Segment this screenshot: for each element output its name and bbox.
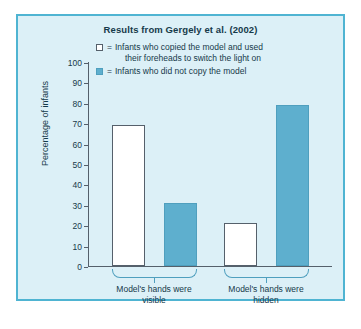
group-brace-tick-1 <box>154 278 155 283</box>
y-tick-mark <box>84 185 88 186</box>
y-tick-mark <box>84 83 88 84</box>
group-label-2: Model's hands werehidden <box>206 284 327 306</box>
y-tick-mark <box>84 145 88 146</box>
group-label-line: hidden <box>206 295 327 306</box>
y-axis-title: Percentage of infants <box>40 81 50 166</box>
bar-group2-series2 <box>276 105 309 266</box>
y-tick-mark <box>84 226 88 227</box>
group-brace-tick-2 <box>266 278 267 283</box>
y-axis-line <box>88 62 89 267</box>
y-tick-mark <box>84 165 88 166</box>
legend-label-copied-line1: Infants who copied the model and used <box>115 42 263 52</box>
y-tick-label: 0 <box>77 262 82 272</box>
group-brace-2 <box>224 269 309 278</box>
y-tick-label: 20 <box>73 221 82 231</box>
y-tick-mark <box>84 63 88 64</box>
y-tick-mark <box>84 104 88 105</box>
legend-equals-sign: = <box>107 42 112 53</box>
figure-panel: Results from Gergely et al. (2002) = Inf… <box>16 14 345 301</box>
y-tick-label: 30 <box>73 201 82 211</box>
y-tick-label: 50 <box>73 160 82 170</box>
group-label-line: Model's hands were <box>206 284 327 295</box>
y-tick-mark <box>84 267 88 268</box>
y-tick-label: 80 <box>73 99 82 109</box>
y-tick-mark <box>84 247 88 248</box>
y-tick-label: 10 <box>73 242 82 252</box>
bar-group2-series1 <box>224 223 257 266</box>
y-tick-mark <box>84 124 88 125</box>
chart-title: Results from Gergely et al. (2002) <box>18 24 343 35</box>
group-label-1: Model's hands werevisible <box>94 284 215 306</box>
y-tick-mark <box>84 206 88 207</box>
bar-group1-series2 <box>164 203 197 266</box>
y-tick-label: 70 <box>73 119 82 129</box>
plot-area: 0102030405060708090100 <box>88 62 332 267</box>
legend-label-copied: Infants who copied the model and used th… <box>115 42 263 63</box>
y-tick-label: 60 <box>73 140 82 150</box>
y-tick-label: 90 <box>73 78 82 88</box>
bar-group1-series1 <box>112 125 145 266</box>
y-tick-label: 40 <box>73 180 82 190</box>
y-tick-label: 100 <box>68 58 82 68</box>
x-axis-line <box>88 266 332 267</box>
legend-item-copied: = Infants who copied the model and used … <box>96 42 332 63</box>
group-brace-1 <box>112 269 197 278</box>
legend-swatch-white-square <box>96 44 103 51</box>
group-label-line: Model's hands were <box>94 284 215 295</box>
group-label-line: visible <box>94 295 215 306</box>
